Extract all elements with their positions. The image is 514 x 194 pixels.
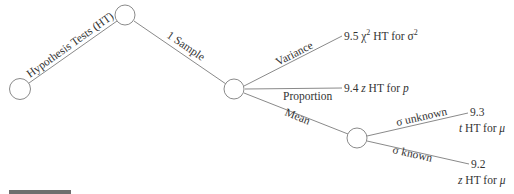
root-node [115, 5, 135, 25]
one-sample-node [224, 79, 244, 99]
edge-label-hypothesis-tests: Hypothesis Tests (HT) [24, 10, 116, 81]
edge-root-to-hypothesis [29, 21, 117, 83]
leaf-sigma-unknown: t HT for μ [459, 122, 505, 135]
edge-root-to-one-sample [134, 21, 226, 84]
leaf-proportion: 9.4 z HT for p [344, 82, 409, 95]
footer-bar [9, 190, 71, 194]
mean-node [347, 128, 367, 148]
hypothesis-test-tree: Hypothesis Tests (HT) 1 Sample Variance … [0, 0, 514, 194]
edge-label-sigma-known: σ known [392, 143, 434, 164]
edge-label-proportion: Proportion [283, 90, 332, 103]
edge-label-sigma-unknown: σ unknown [395, 105, 448, 128]
edge-variance [244, 36, 342, 86]
start-node [10, 79, 31, 100]
leaf-sigma-unknown-section: 9.3 [470, 106, 485, 118]
edge-proportion [245, 88, 342, 89]
leaf-variance: 9.5 χ2 HT for σ2 [344, 28, 418, 43]
leaf-sigma-known-section: 9.2 [471, 158, 486, 170]
edge-label-mean: Mean [283, 106, 312, 127]
leaf-sigma-known: z HT for μ [457, 174, 506, 187]
